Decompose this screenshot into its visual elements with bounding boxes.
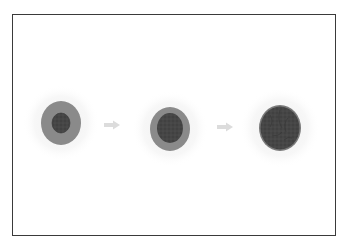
stage-3-nucleus: [261, 107, 300, 150]
stage-2-cell: [132, 91, 208, 167]
stage-1-nucleus: [52, 113, 70, 133]
progression-diagram: [0, 0, 349, 243]
arrow-2-icon: [217, 123, 233, 132]
stage-3-cell: [240, 88, 320, 168]
stage-2-nucleus: [157, 113, 183, 143]
stage-1-cell: [23, 85, 99, 161]
arrow-1-icon: [104, 121, 120, 130]
